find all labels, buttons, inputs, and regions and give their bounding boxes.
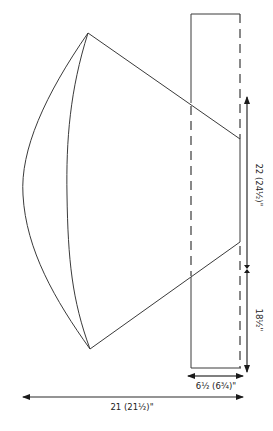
schematic-diagram: 22 (24½)" 18½" 6½ (6¾)" 21 (21½)" bbox=[0, 0, 273, 431]
width-total-label: 21 (21½)" bbox=[110, 402, 153, 412]
upper-diagonal-line bbox=[88, 33, 240, 139]
lower-diagonal-line bbox=[90, 242, 240, 349]
length-upper-label: 22 (24½)" bbox=[254, 163, 264, 206]
sleeve-cap-inner-curve bbox=[67, 33, 90, 349]
length-divider-icon bbox=[244, 265, 250, 273]
width-cuff-label: 6½ (6¾)" bbox=[196, 381, 237, 391]
sleeve-cap-outer-curve bbox=[23, 33, 90, 349]
length-lower-label: 18½" bbox=[254, 309, 264, 332]
